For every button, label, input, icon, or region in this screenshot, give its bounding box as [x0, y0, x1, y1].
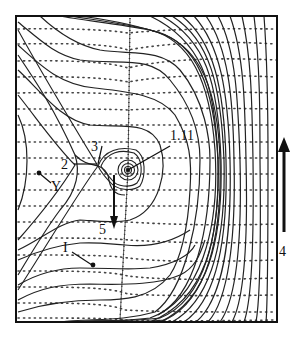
focus-spiral: [98, 149, 144, 190]
label-1-11: 1.11: [170, 129, 194, 143]
point-i: [91, 263, 96, 268]
phase-portrait-diagram: [0, 0, 303, 337]
label-5: 5: [99, 223, 106, 237]
label-2: 2: [61, 158, 68, 172]
arrow-4: [278, 137, 290, 232]
frame-border: [16, 16, 277, 322]
dotted-flow-lines: [18, 29, 276, 321]
point-y: [37, 171, 42, 176]
label-3: 3: [91, 140, 98, 154]
separatrix-lines: [18, 30, 98, 290]
label-i: I: [63, 241, 68, 255]
label-4: 4: [279, 245, 286, 259]
label-y: Y: [51, 180, 61, 194]
trajectory-curves: [18, 16, 220, 322]
